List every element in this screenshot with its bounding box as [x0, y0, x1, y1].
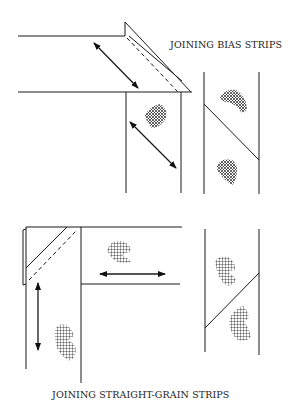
diagonal-seam	[204, 104, 259, 160]
fabric-swatch-icon	[145, 104, 166, 128]
seam-dashed-line	[29, 230, 77, 280]
fabric-swatch-icon	[107, 241, 131, 263]
grain-arrow-icon	[130, 122, 176, 168]
straight-grain-joining-panel	[23, 227, 259, 383]
grain-arrow-icon	[94, 43, 138, 88]
sewing-diagram: JOINING BIAS STRIPS JOINING STRAIGHT-GRA…	[0, 0, 294, 412]
bottom-panel-title: JOINING STRAIGHT-GRAIN STRIPS	[52, 389, 229, 400]
fabric-swatch-icon	[215, 257, 236, 286]
fabric-swatch-icon	[220, 90, 247, 113]
fold-outer-diagonal	[125, 22, 191, 92]
diagram-canvas	[0, 0, 294, 412]
fabric-swatch-icon	[229, 306, 251, 341]
fabric-swatch-icon	[55, 325, 76, 361]
fabric-swatch-icon	[217, 160, 237, 185]
top-panel-title: JOINING BIAS STRIPS	[170, 39, 282, 50]
